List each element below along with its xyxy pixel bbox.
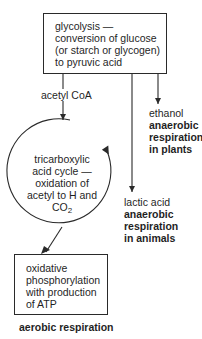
anaerobic-animals-line-1: anaerobic <box>124 208 178 220</box>
glycolysis-line-2: conversion of glucose <box>55 32 160 44</box>
glycolysis-line-1: glycolysis — <box>55 20 160 32</box>
glycolysis-line-3: (or starch or glycogen) <box>55 44 160 56</box>
acetyl-coa-label: acetyl CoA <box>40 89 93 101</box>
co2-text: CO <box>52 201 68 213</box>
glycolysis-line-4: to pyruvic acid <box>55 56 160 68</box>
tca-line-co2: CO2 <box>26 201 98 213</box>
oxphos-line-1: oxidative <box>26 262 100 274</box>
anaerobic-plants-line-1: anaerobic <box>149 119 202 131</box>
oxphos-line-2: phosphorylation <box>26 274 100 286</box>
anaerobic-plants-line-3: in plants <box>149 143 202 155</box>
oxphos-text: oxidative phosphorylation with productio… <box>26 262 100 310</box>
oxphos-line-4: of ATP <box>26 298 100 310</box>
oxphos-arrow <box>46 227 62 252</box>
anaerobic-animals-line-2: respiration <box>124 220 178 232</box>
tca-line-2: acid cycle — <box>26 165 98 177</box>
anaerobic-plants-line-2: respiration <box>149 131 202 143</box>
ethanol-label: ethanol <box>149 107 202 119</box>
glycolysis-text: glycolysis — conversion of glucose (or s… <box>55 20 160 68</box>
co2-subscript: 2 <box>68 206 72 215</box>
oxphos-line-3: with production <box>26 286 100 298</box>
tca-line-4: acetyl to H and <box>26 189 98 201</box>
tca-line-3: oxidation of <box>26 177 98 189</box>
lactic-acid-branch: lactic acid anaerobic respiration in ani… <box>124 196 178 244</box>
tca-line-1: tricarboxylic <box>26 153 98 165</box>
ethanol-branch: ethanol anaerobic respiration in plants <box>149 107 202 155</box>
lactic-acid-label: lactic acid <box>124 196 178 208</box>
aerobic-respiration-label: aerobic respiration <box>19 321 114 333</box>
tca-cycle-text: tricarboxylic acid cycle — oxidation of … <box>26 153 98 213</box>
anaerobic-animals-line-3: in animals <box>124 232 178 244</box>
